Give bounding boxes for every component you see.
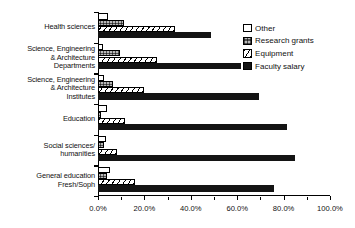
horizontal-bar-chart: Health sciencesScience, Engineering & Ar…: [0, 0, 355, 228]
bar-faculty-salary: [98, 155, 295, 161]
x-axis-tick-major: [191, 196, 192, 201]
bar-faculty-salary: [98, 93, 259, 99]
legend-swatch-icon: [243, 24, 252, 32]
x-axis-tick-label: 20.0%: [134, 204, 156, 213]
category-label: Education: [63, 115, 95, 124]
x-axis-tick-minor: [168, 197, 169, 200]
legend-label: Research grants: [255, 36, 314, 45]
x-axis-tick-minor: [214, 197, 215, 200]
legend-item: Research grants: [243, 35, 353, 48]
legend-swatch-icon: [243, 49, 252, 57]
x-axis-tick-minor: [121, 197, 122, 200]
category-label: General education Fresh/Soph: [36, 172, 95, 189]
x-axis-tick-label: 100.0%: [317, 204, 343, 213]
x-axis-tick-label: 40.0%: [180, 204, 202, 213]
x-axis-tick-label: 60.0%: [226, 204, 248, 213]
legend-label: Other: [255, 24, 275, 33]
bar-faculty-salary: [98, 185, 274, 191]
x-axis-tick-major: [284, 196, 285, 201]
x-axis-tick-major: [144, 196, 145, 201]
category-label: Science, Engineering & Architecture Inst…: [27, 76, 95, 102]
x-axis-tick-label: 0.0%: [89, 204, 106, 213]
bar-faculty-salary: [98, 63, 241, 69]
category-axis-labels: Health sciencesScience, Engineering & Ar…: [0, 0, 97, 196]
legend-item: Other: [243, 22, 353, 35]
legend: OtherResearch grantsEquipmentFaculty sal…: [243, 22, 353, 72]
x-axis-tick-major: [330, 196, 331, 201]
x-axis-line: [98, 195, 330, 196]
category-label: Social sciences/ humanities: [44, 142, 95, 159]
x-axis-tick-label: 80.0%: [273, 204, 295, 213]
bar-faculty-salary: [98, 32, 211, 38]
legend-swatch-icon: [243, 62, 252, 70]
legend-label: Faculty salary: [255, 62, 304, 71]
legend-item: Faculty salary: [243, 60, 353, 73]
legend-item: Equipment: [243, 47, 353, 60]
x-axis-tick-minor: [307, 197, 308, 200]
x-axis-tick-minor: [260, 197, 261, 200]
legend-swatch-icon: [243, 37, 252, 45]
x-axis-tick-major: [98, 196, 99, 201]
category-label: Health sciences: [44, 23, 95, 32]
legend-label: Equipment: [255, 49, 293, 58]
bar-faculty-salary: [98, 124, 287, 130]
category-label: Science, Engineering & Architecture Depa…: [27, 45, 95, 71]
x-axis-tick-major: [237, 196, 238, 201]
